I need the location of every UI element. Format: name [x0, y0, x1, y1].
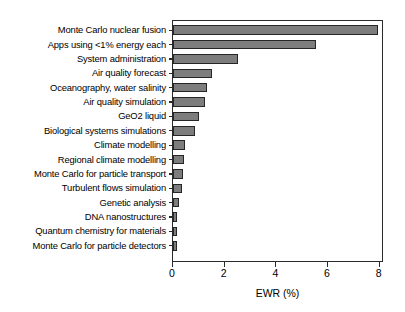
bar-track [173, 181, 383, 195]
bar-row: Climate modelling [0, 138, 383, 152]
bar [173, 40, 316, 50]
bar [173, 140, 185, 150]
bar-track [173, 239, 383, 253]
bar-row: Biological systems simulations [0, 124, 383, 138]
bar [173, 97, 205, 107]
bar-chart-figure: Monte Carlo nuclear fusionApps using <1%… [0, 0, 405, 312]
bar-row: Air quality forecast [0, 66, 383, 80]
bar-row: Regional climate modelling [0, 152, 383, 166]
bar-row: Monte Carlo nuclear fusion [0, 23, 383, 37]
x-axis-tick-label: 0 [169, 267, 175, 280]
bar-track [173, 152, 383, 166]
bar-track [173, 23, 383, 37]
bar-track [173, 138, 383, 152]
bar-track [173, 210, 383, 224]
bar [173, 83, 207, 93]
category-label: Biological systems simulations [0, 126, 169, 136]
category-label: Monte Carlo for particle detectors [0, 241, 169, 251]
bar-row: Air quality simulation [0, 95, 383, 109]
bar-track [173, 124, 383, 138]
x-axis-tick-label: 2 [221, 267, 227, 280]
bar [173, 241, 177, 251]
category-label: Regional climate modelling [0, 155, 169, 165]
category-label: Climate modelling [0, 140, 169, 150]
bar [173, 212, 177, 222]
category-label: DNA nanostructures [0, 212, 169, 222]
bar [173, 112, 199, 122]
bar [173, 54, 238, 64]
bar [173, 169, 183, 179]
bar-track [173, 196, 383, 210]
category-label: Quantum chemistry for materials [0, 226, 169, 236]
bar [173, 227, 177, 237]
x-axis-title: EWR (%) [172, 287, 383, 299]
category-label: Genetic analysis [0, 198, 169, 208]
bar-row: Oceanography, water salinity [0, 81, 383, 95]
bar [173, 69, 212, 79]
category-label: GeO2 liquid [0, 111, 169, 121]
bar [173, 25, 378, 35]
bar-row: Turbulent flows simulation [0, 181, 383, 195]
bar-track [173, 167, 383, 181]
bar [173, 126, 195, 136]
category-label: System administration [0, 54, 169, 64]
category-label: Monte Carlo nuclear fusion [0, 25, 169, 35]
bar-row: System administration [0, 52, 383, 66]
x-axis-tick-labels: 02468 [172, 267, 383, 281]
bar-row: Monte Carlo for particle transport [0, 167, 383, 181]
bar [173, 198, 179, 208]
category-label: Oceanography, water salinity [0, 83, 169, 93]
x-axis-tick-label: 8 [376, 267, 382, 280]
category-label: Air quality simulation [0, 97, 169, 107]
bar-track [173, 52, 383, 66]
category-label: Apps using <1% energy each [0, 40, 169, 50]
bar-row: Genetic analysis [0, 196, 383, 210]
bar-row: DNA nanostructures [0, 210, 383, 224]
x-axis-tick-label: 4 [272, 267, 278, 280]
bar-track [173, 37, 383, 51]
bar-rows-container: Monte Carlo nuclear fusionApps using <1%… [0, 20, 383, 262]
x-axis-tick-label: 6 [324, 267, 330, 280]
bar-row: Apps using <1% energy each [0, 37, 383, 51]
bar [173, 155, 184, 165]
bar-track [173, 224, 383, 238]
bar [173, 184, 182, 194]
category-label: Air quality forecast [0, 68, 169, 78]
bar-track [173, 95, 383, 109]
bar-track [173, 66, 383, 80]
bar-row: Quantum chemistry for materials [0, 224, 383, 238]
category-label: Turbulent flows simulation [0, 183, 169, 193]
bar-track [173, 109, 383, 123]
bar-track [173, 81, 383, 95]
bar-row: Monte Carlo for particle detectors [0, 239, 383, 253]
category-label: Monte Carlo for particle transport [0, 169, 169, 179]
bar-row: GeO2 liquid [0, 109, 383, 123]
